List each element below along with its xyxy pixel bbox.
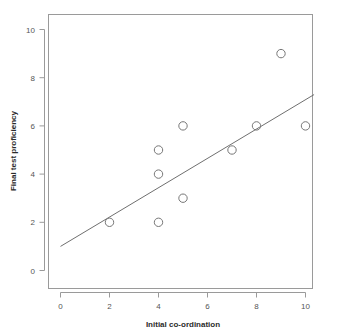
x-axis-tick-label-group: 0246810 (58, 302, 310, 311)
y-axis-tick-label-group: 0246810 (26, 26, 35, 276)
y-axis-title: Final test proficiency (9, 110, 18, 191)
x-axis-tick-label: 2 (107, 302, 112, 311)
y-axis-tick-label: 4 (31, 170, 36, 179)
x-axis-tick-group (61, 293, 306, 298)
data-point (154, 170, 162, 178)
data-point (301, 122, 309, 130)
x-axis-tick-label: 4 (156, 302, 161, 311)
data-point (105, 218, 113, 226)
plot-canvas: 0246810 Final test proficiency 0246810 I… (0, 0, 337, 336)
data-point (179, 122, 187, 130)
x-axis-tick-label: 8 (254, 302, 259, 311)
x-axis: 0246810 Initial co-ordination (58, 293, 310, 330)
data-point-group (105, 49, 309, 226)
data-point (154, 218, 162, 226)
y-axis: 0246810 Final test proficiency (9, 26, 45, 276)
y-axis-tick-label: 10 (26, 26, 35, 35)
plot-frame (49, 15, 313, 289)
scatter-plot-figure: 0246810 Final test proficiency 0246810 I… (0, 0, 337, 336)
regression-line-group (61, 95, 315, 247)
x-axis-tick-label: 10 (301, 302, 310, 311)
x-axis-tick-label: 6 (205, 302, 210, 311)
y-axis-tick-label: 8 (31, 74, 36, 83)
y-axis-tick-label: 2 (31, 218, 36, 227)
y-axis-tick-group (40, 30, 45, 271)
x-axis-tick-label: 0 (58, 302, 63, 311)
y-axis-tick-label: 6 (31, 122, 36, 131)
data-point (228, 146, 236, 154)
y-axis-tick-label: 0 (31, 267, 36, 276)
regression-line (61, 95, 315, 247)
data-point (277, 49, 285, 57)
data-point (154, 146, 162, 154)
x-axis-title: Initial co-ordination (146, 320, 220, 329)
data-point (179, 194, 187, 202)
